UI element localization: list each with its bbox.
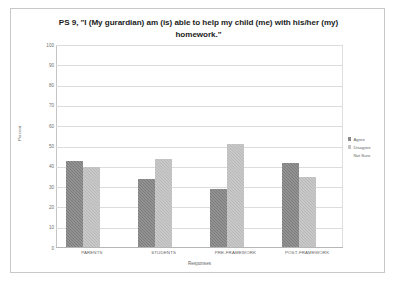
y-tick-label: 40: [38, 164, 54, 169]
y-tick-label: 90: [38, 63, 54, 68]
y-tick-label: 20: [38, 205, 54, 210]
y-tick-label: 30: [38, 185, 54, 190]
y-tick-label: 10: [38, 225, 54, 230]
bar-students-not-sure[interactable]: [172, 203, 189, 248]
y-axis-ticks: 1009080706050403020100: [36, 45, 54, 248]
plot-area: [56, 45, 343, 248]
x-axis-title: Responses: [56, 261, 343, 266]
chart-title: PS 9, "I (My gurardian) am (is) able to …: [41, 17, 356, 41]
chart-legend: AgreeDisagreeNot Sure: [348, 135, 390, 159]
bar-pre-framework-disagree[interactable]: [227, 144, 244, 248]
y-tick-label: 70: [38, 103, 54, 108]
legend-label: Not Sure: [353, 153, 370, 158]
x-tick-label-post-framework: POST-FRAMEWORK: [271, 250, 343, 255]
bar-students-disagree[interactable]: [155, 159, 172, 248]
legend-swatch-icon: [348, 145, 351, 148]
y-tick-label: 50: [38, 144, 54, 149]
legend-swatch-icon: [348, 153, 351, 156]
y-tick-label: 60: [38, 124, 54, 129]
bar-parents-agree[interactable]: [66, 161, 83, 248]
bar-group-post-framework: [271, 45, 343, 248]
bar-students-agree[interactable]: [138, 179, 155, 248]
bar-parents-disagree[interactable]: [83, 167, 100, 248]
x-axis-ticks: PARENTSSTUDENTSPRE-FRAMEWORKPOST-FRAMEWO…: [56, 250, 343, 260]
bar-group-students: [128, 45, 200, 248]
bar-group-parents: [56, 45, 128, 248]
bar-post-framework-disagree[interactable]: [299, 177, 316, 248]
legend-item-not-sure[interactable]: Not Sure: [348, 151, 390, 159]
y-axis-title: Percent: [17, 114, 22, 154]
x-tick-label-students: STUDENTS: [128, 250, 200, 255]
legend-swatch-icon: [348, 137, 351, 140]
y-tick-label: 0: [38, 246, 54, 251]
bar-post-framework-agree[interactable]: [282, 163, 299, 248]
bar-post-framework-not-sure[interactable]: [316, 199, 333, 248]
y-tick-label: 80: [38, 83, 54, 88]
legend-label: Disagree: [353, 145, 370, 150]
x-tick-label-pre-framework: PRE-FRAMEWORK: [200, 250, 272, 255]
x-axis-line: [56, 247, 343, 248]
bar-pre-framework-agree[interactable]: [210, 189, 227, 248]
bar-pre-framework-not-sure[interactable]: [244, 207, 261, 248]
legend-item-agree[interactable]: Agree: [348, 135, 390, 143]
bar-group-pre-framework: [200, 45, 272, 248]
x-tick-label-parents: PARENTS: [56, 250, 128, 255]
legend-label: Agree: [353, 137, 364, 142]
chart-figure: PS 9, "I (My gurardian) am (is) able to …: [10, 8, 385, 273]
y-tick-label: 100: [38, 43, 54, 48]
legend-item-disagree[interactable]: Disagree: [348, 143, 390, 151]
bar-parents-not-sure[interactable]: [100, 211, 117, 248]
